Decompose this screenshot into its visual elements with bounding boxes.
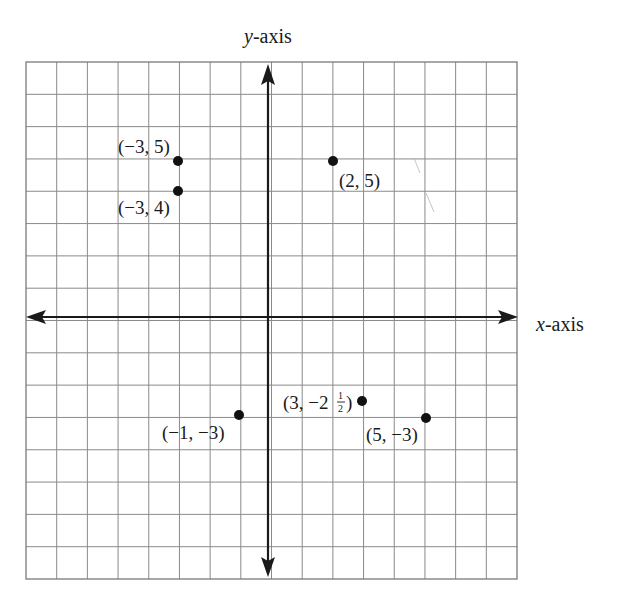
coordinate-plane: y-axis x-axis (−3, 5) (−3, 4) (2, 5) (−1… bbox=[0, 0, 617, 608]
point-3-neg2half bbox=[357, 396, 367, 406]
scan-mark bbox=[426, 193, 434, 212]
point-5-neg3 bbox=[421, 413, 431, 423]
label-3-neg2half: (3, −2 bbox=[283, 392, 329, 414]
point-neg3-5 bbox=[173, 156, 183, 166]
y-axis-label: y-axis bbox=[242, 25, 292, 48]
x-axis-var: x bbox=[535, 313, 545, 335]
point-2-5 bbox=[328, 156, 338, 166]
label-neg3-5: (−3, 5) bbox=[118, 136, 170, 158]
label-3-neg2half-num: 1 bbox=[338, 390, 343, 401]
label-3-neg2half-den: 2 bbox=[338, 403, 343, 414]
point-neg3-4 bbox=[173, 186, 183, 196]
grid bbox=[26, 62, 517, 579]
label-neg3-4: (−3, 4) bbox=[118, 197, 170, 219]
label-3-neg2half-close: ) bbox=[346, 392, 352, 414]
label-2-5: (2, 5) bbox=[339, 170, 380, 192]
scan-mark bbox=[414, 158, 420, 173]
label-5-neg3: (5, −3) bbox=[366, 424, 418, 446]
point-neg1-neg3 bbox=[234, 410, 244, 420]
x-axis-suffix: -axis bbox=[545, 313, 584, 335]
y-axis-suffix: -axis bbox=[253, 25, 292, 47]
label-3-neg2half-main: (3, −2 bbox=[283, 392, 329, 414]
y-axis-var: y bbox=[242, 25, 253, 48]
label-neg1-neg3: (−1, −3) bbox=[162, 422, 225, 444]
x-axis-label: x-axis bbox=[535, 313, 584, 335]
